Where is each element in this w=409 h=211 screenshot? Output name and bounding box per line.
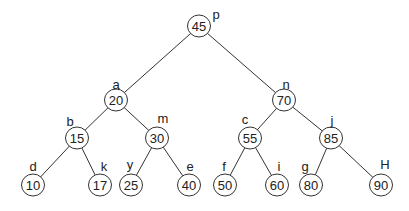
node-label: k [101, 159, 108, 174]
tree-node-y: 25y [120, 157, 143, 197]
node-value: 17 [93, 178, 107, 193]
tree-node-e: 40e [178, 159, 201, 197]
tree-node-p: 45p [188, 7, 220, 38]
node-label: p [212, 7, 219, 22]
tree-node-m: 30m [146, 111, 169, 150]
tree-node-k: 17k [89, 159, 112, 197]
node-label: H [380, 157, 389, 172]
nodes-group: 45p20a70n15b30m55c85j10d17k25y40e50f60i8… [22, 7, 393, 197]
node-value: 15 [70, 131, 84, 146]
node-value: 70 [277, 93, 291, 108]
node-label: m [158, 111, 169, 126]
edges-group [33, 26, 381, 185]
node-value: 90 [374, 178, 388, 193]
node-value: 55 [243, 131, 257, 146]
node-label: f [222, 159, 226, 174]
node-value: 45 [192, 19, 206, 34]
tree-node-i: 60i [266, 159, 289, 197]
tree-node-H: 90H [370, 157, 393, 197]
node-label: e [186, 159, 193, 174]
node-value: 20 [109, 93, 123, 108]
tree-node-b: 15b [66, 114, 89, 150]
node-label: n [282, 77, 289, 92]
tree-node-j: 85j [320, 113, 343, 150]
node-label: d [29, 159, 36, 174]
node-value: 50 [218, 178, 232, 193]
node-value: 10 [26, 178, 40, 193]
tree-node-c: 55c [239, 112, 262, 150]
edge-p-n [199, 26, 284, 100]
node-value: 80 [304, 178, 318, 193]
tree-node-g: 80g [300, 159, 323, 197]
node-value: 40 [182, 178, 196, 193]
node-label: c [242, 112, 249, 127]
node-label: y [127, 157, 134, 172]
tree-node-n: 70n [273, 77, 296, 112]
tree-node-f: 50f [214, 159, 237, 197]
tree-node-a: 20a [105, 77, 128, 112]
tree-node-d: 10d [22, 159, 45, 197]
node-label: a [112, 77, 120, 92]
node-label: b [66, 114, 73, 129]
node-label: j [330, 113, 334, 128]
binary-tree-diagram: 45p20a70n15b30m55c85j10d17k25y40e50f60i8… [0, 0, 409, 211]
edge-p-a [116, 26, 199, 100]
node-label: g [301, 159, 308, 174]
node-value: 85 [324, 131, 338, 146]
node-value: 25 [124, 178, 138, 193]
node-label: i [278, 159, 281, 174]
node-value: 30 [150, 131, 164, 146]
node-value: 60 [270, 178, 284, 193]
